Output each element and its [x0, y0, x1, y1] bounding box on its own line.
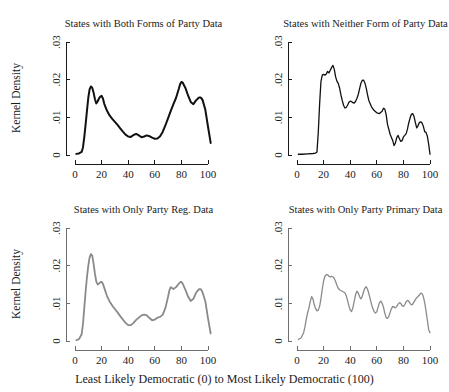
x-tick-label: 40 [123, 354, 135, 366]
y-tick-label: .02 [272, 259, 284, 273]
density-curve [298, 275, 430, 340]
x-tick-label: 80 [176, 354, 188, 366]
x-tick-label: 40 [123, 168, 135, 180]
x-tick-label: 20 [96, 354, 108, 366]
density-curve [298, 65, 430, 154]
y-tick-label: .03 [50, 35, 62, 49]
y-tick-label: .02 [50, 73, 62, 87]
x-tick-label: 20 [96, 168, 108, 180]
x-tick-label: 0 [294, 168, 300, 180]
x-tick-label: 20 [318, 168, 330, 180]
y-tick-label: .02 [272, 73, 284, 87]
y-tick-label: .03 [272, 221, 284, 235]
x-tick-label: 0 [294, 354, 300, 366]
ylabel-top: Kernel Density [10, 63, 23, 133]
x-tick-label: 100 [422, 354, 439, 366]
x-tick-label: 0 [72, 354, 78, 366]
figure-container: States with Both Forms of Party Data0204… [0, 0, 449, 392]
panel-title: States with Only Party Reg. Data [74, 204, 214, 215]
x-tick-label: 100 [200, 168, 217, 180]
panel-bottom-right: States with Only Party Primary Data02040… [272, 204, 443, 366]
y-tick-label: 0 [272, 338, 284, 344]
x-tick-label: 100 [200, 354, 217, 366]
y-tick-label: 0 [50, 338, 62, 344]
x-tick-label: 60 [149, 354, 161, 366]
y-tick-label: .01 [272, 296, 284, 310]
x-tick-label: 100 [422, 168, 439, 180]
y-tick-label: .01 [50, 110, 62, 124]
x-axis-caption: Least Likely Democratic (0) to Most Like… [75, 372, 374, 386]
panel-top-left: States with Both Forms of Party Data0204… [50, 18, 223, 180]
x-tick-label: 80 [398, 354, 410, 366]
panel-title: States with Only Party Primary Data [289, 204, 443, 215]
multi-panel-kernel-density-figure: States with Both Forms of Party Data0204… [0, 0, 449, 392]
x-tick-label: 60 [371, 354, 383, 366]
y-tick-label: .03 [50, 221, 62, 235]
y-tick-label: .03 [272, 35, 284, 49]
density-curve [76, 82, 210, 154]
x-tick-label: 80 [176, 168, 188, 180]
x-tick-label: 60 [149, 168, 161, 180]
x-tick-label: 0 [72, 168, 78, 180]
x-tick-label: 20 [318, 354, 330, 366]
x-tick-label: 60 [371, 168, 383, 180]
panel-title: States with Both Forms of Party Data [65, 18, 223, 29]
y-tick-label: 0 [272, 152, 284, 158]
x-tick-label: 80 [398, 168, 410, 180]
panel-bottom-left: States with Only Party Reg. Data02040608… [50, 204, 217, 366]
y-tick-label: .01 [272, 110, 284, 124]
panel-title: States with Neither Form of Party Data [283, 18, 448, 29]
x-tick-label: 40 [345, 354, 357, 366]
y-tick-label: .02 [50, 259, 62, 273]
y-tick-label: 0 [50, 152, 62, 158]
density-curve [76, 254, 210, 340]
ylabel-bottom: Kernel Density [10, 249, 23, 319]
y-tick-label: .01 [50, 296, 62, 310]
x-tick-label: 40 [345, 168, 357, 180]
panel-top-right: States with Neither Form of Party Data02… [272, 18, 448, 180]
